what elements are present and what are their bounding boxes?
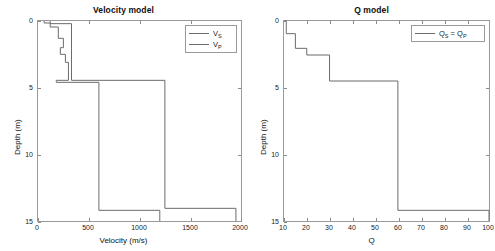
- xtick-label-velocity-0: 0: [35, 224, 39, 231]
- ytick-label-q-1: 5: [267, 84, 279, 91]
- tick-x-q-5: [399, 218, 400, 221]
- legend-swatch-vp: [189, 44, 209, 45]
- xtick-label-q-8: 90: [463, 224, 471, 231]
- tick-xtop-q-5: [399, 21, 400, 24]
- xtick-label-q-2: 30: [325, 224, 333, 231]
- tick-y-q-1: [284, 88, 287, 89]
- legend-label-q-sub: S: [445, 33, 449, 39]
- legend-swatch-q: [415, 33, 435, 34]
- plot-area-velocity: VS VP: [37, 20, 242, 222]
- tick-x-velocity-3: [191, 218, 192, 221]
- tick-x-q-6: [422, 218, 423, 221]
- xtick-label-q-3: 40: [348, 224, 356, 231]
- tick-x-velocity-1: [89, 218, 90, 221]
- legend-entry-vp: VP: [189, 39, 232, 50]
- ytick-label-velocity-0: 0: [21, 17, 33, 24]
- tick-y-q-0: [284, 21, 287, 22]
- legend-label-q: QS = QP: [439, 29, 467, 38]
- panel-velocity-model: Velocity model: [0, 0, 247, 251]
- tick-x-q-1: [307, 218, 308, 221]
- tick-xtop-velocity-2: [140, 21, 141, 24]
- tick-x-q-0: [284, 218, 285, 221]
- tick-x-q-3: [353, 218, 354, 221]
- legend-label-vs: VS: [213, 29, 222, 38]
- tick-xtop-q-6: [422, 21, 423, 24]
- tick-xtop-q-1: [307, 21, 308, 24]
- ytick-label-q-0: 0: [267, 17, 279, 24]
- legend-velocity: VS VP: [185, 25, 237, 53]
- xtick-label-q-4: 50: [371, 224, 379, 231]
- ytick-label-velocity-3: 15: [17, 218, 33, 225]
- tick-y-q-2: [284, 155, 287, 156]
- tick-xtop-q-7: [445, 21, 446, 24]
- plot-area-q: QS = QP: [283, 20, 490, 222]
- tick-y-velocity-3: [38, 222, 41, 223]
- tick-xtop-q-4: [376, 21, 377, 24]
- tick-y-velocity-2: [38, 155, 41, 156]
- legend-label-vp-sub: P: [218, 44, 222, 50]
- tick-x-q-8: [468, 218, 469, 221]
- axis-title-y-velocity: Depth (m): [13, 119, 22, 155]
- panel-title-q: Q model: [248, 5, 495, 15]
- xtick-label-q-1: 20: [302, 224, 310, 231]
- legend-label-q-main: Q: [439, 29, 445, 38]
- tick-x-velocity-0: [38, 218, 39, 221]
- tick-xtop-velocity-1: [89, 21, 90, 24]
- xtick-label-q-5: 60: [394, 224, 402, 231]
- xtick-label-velocity-1: 500: [82, 224, 94, 231]
- legend-label-vs-sub: S: [218, 33, 222, 39]
- legend-label-q-tail: = Q: [449, 29, 463, 38]
- xtick-label-q-0: 10: [279, 224, 287, 231]
- ytick-label-q-3: 15: [263, 218, 279, 225]
- legend-swatch-vs: [189, 33, 209, 34]
- tick-xtop-q-8: [468, 21, 469, 24]
- xtick-label-velocity-4: 2000: [232, 224, 248, 231]
- axis-title-y-q: Depth (m): [259, 119, 268, 155]
- tick-x-q-4: [376, 218, 377, 221]
- series-path-vs: [44, 21, 160, 221]
- tick-x-q-2: [330, 218, 331, 221]
- tick-xtop-velocity-3: [191, 21, 192, 24]
- tick-x-q-9: [489, 218, 490, 221]
- panel-q-model: Q model: [248, 0, 495, 251]
- tick-x-q-7: [445, 218, 446, 221]
- legend-entry-q: QS = QP: [415, 28, 480, 39]
- tick-y-q-3: [284, 222, 287, 223]
- ytick-label-velocity-1: 5: [21, 84, 33, 91]
- legend-label-q-sub2: P: [463, 33, 467, 39]
- tick-yright-q-1: [486, 88, 489, 89]
- legend-label-vp: VP: [213, 40, 222, 49]
- tick-xtop-q-3: [353, 21, 354, 24]
- tick-yright-velocity-2: [238, 155, 241, 156]
- xtick-label-velocity-3: 1500: [182, 224, 198, 231]
- xtick-label-q-7: 80: [440, 224, 448, 231]
- tick-x-velocity-4: [241, 218, 242, 221]
- xtick-label-q-6: 70: [417, 224, 425, 231]
- tick-yright-q-2: [486, 155, 489, 156]
- tick-x-velocity-2: [140, 218, 141, 221]
- xtick-label-velocity-2: 1000: [131, 224, 147, 231]
- tick-y-velocity-1: [38, 88, 41, 89]
- figure-container: Velocity model: [0, 0, 495, 251]
- axis-title-x-q: Q: [248, 236, 495, 245]
- legend-q: QS = QP: [411, 25, 485, 42]
- legend-entry-vs: VS: [189, 28, 232, 39]
- tick-yright-velocity-1: [238, 88, 241, 89]
- axis-title-x-velocity: Velocity (m/s): [0, 236, 247, 245]
- tick-xtop-q-2: [330, 21, 331, 24]
- panel-title-velocity: Velocity model: [0, 5, 247, 15]
- q-series-group: [284, 21, 489, 221]
- tick-y-velocity-0: [38, 21, 41, 22]
- xtick-label-q-9: 100: [482, 224, 494, 231]
- series-path-q: [284, 21, 489, 221]
